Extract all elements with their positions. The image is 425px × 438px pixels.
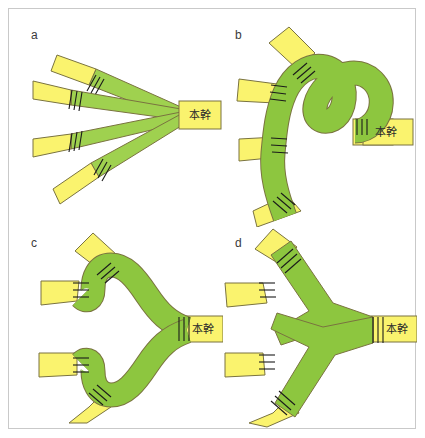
branch-1-yellow	[51, 55, 96, 85]
trunk-c-label: 本幹	[192, 322, 214, 336]
panel-d-lower-arm	[271, 313, 373, 417]
branch-2-yellow	[33, 81, 71, 105]
branch-d2-yellow	[225, 283, 267, 307]
figure-frame: a	[8, 8, 416, 429]
branch-d3-yellow	[225, 353, 265, 377]
panel-c-diagram: 本幹	[19, 227, 223, 430]
panel-a: a	[19, 19, 223, 227]
panel-b-diagram: 本幹	[223, 19, 417, 227]
trunk-d-label: 本幹	[386, 322, 408, 336]
branch-c2-yellow	[41, 281, 79, 305]
figure-root: a	[0, 0, 425, 438]
panel-b: b 本幹	[223, 19, 417, 227]
trunk-b-label: 本幹	[375, 125, 397, 139]
trunk-a: 本幹	[179, 101, 221, 129]
panel-c: c 本幹	[19, 227, 223, 430]
branch-3-yellow	[33, 134, 71, 157]
panel-a-diagram: 本幹	[19, 19, 223, 227]
branch-c3-yellow	[39, 353, 77, 377]
branch-4-yellow	[53, 163, 99, 204]
panel-d-diagram: 本幹	[223, 227, 417, 430]
panel-d: d 本幹	[223, 227, 417, 430]
trunk-a-label: 本幹	[189, 108, 211, 122]
